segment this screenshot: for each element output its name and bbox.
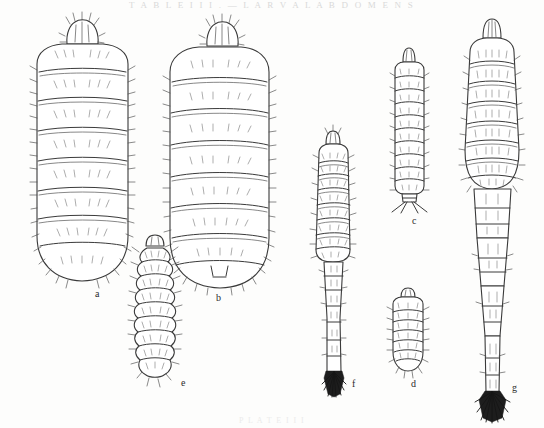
plate-footer-text: P L A T E I I I (0, 416, 544, 426)
specimen-d (387, 288, 429, 378)
figure-label-b: b (216, 293, 221, 303)
figure-label-e: e (181, 378, 186, 388)
specimen-b (163, 14, 276, 295)
plate-drawing-canvas: .ol { fill:#ffffff; stroke:#3a3a3a; stro… (0, 0, 544, 428)
figure-label-f: f (352, 379, 356, 389)
specimen-f (310, 125, 356, 397)
illustration-plate: T A B L E I I I . — L A R V A L A B D O … (0, 0, 544, 428)
specimen-a (30, 12, 135, 288)
figure-label-a: a (95, 289, 100, 299)
figure-label-d: d (411, 379, 416, 389)
specimen-g (459, 19, 525, 423)
figure-label-g: g (512, 383, 517, 393)
specimen-c (390, 48, 429, 213)
figure-label-c: c (412, 216, 417, 226)
